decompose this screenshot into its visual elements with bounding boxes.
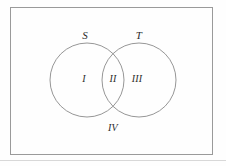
set-label-t: T <box>136 30 142 41</box>
region-label-iii: III <box>132 74 143 84</box>
region-label-iv: IV <box>108 123 118 133</box>
set-label-s: S <box>82 30 88 41</box>
region-label-i: I <box>82 74 86 84</box>
region-label-ii: II <box>109 74 116 84</box>
venn-diagram-figure: S T I II III IV <box>0 0 226 166</box>
bottom-divider <box>0 160 226 161</box>
